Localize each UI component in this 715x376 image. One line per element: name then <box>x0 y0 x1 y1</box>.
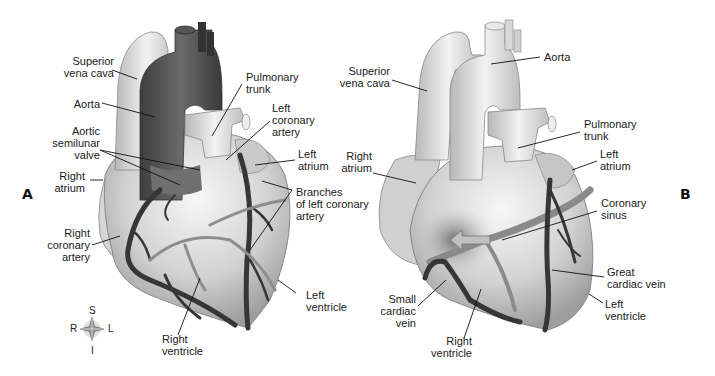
heart-anterior-view <box>99 22 290 328</box>
label-a-branches-left-coronary-artery: Branches of left coronary artery <box>296 186 369 222</box>
compass-left: L <box>108 323 114 334</box>
label-b-superior-vena-cava: Superior vena cava <box>330 65 390 89</box>
label-a-right-atrium: Right atrium <box>40 170 85 194</box>
label-a-right-ventricle: Right ventricle <box>162 333 203 357</box>
label-b-aorta: Aorta <box>544 51 570 63</box>
label-a-left-atrium: Left atrium <box>298 148 329 172</box>
label-b-small-cardiac-vein: Small cardiac vein <box>366 293 416 329</box>
label-a-aorta: Aorta <box>54 98 100 110</box>
label-a-pulmonary-trunk: Pulmonary trunk <box>246 71 299 95</box>
panel-label-a: A <box>22 186 33 202</box>
label-b-left-ventricle: Left ventricle <box>605 298 646 322</box>
label-a-left-coronary-artery: Left coronary artery <box>272 102 315 138</box>
compass-star-icon <box>80 317 104 341</box>
heart-diagram: A Superior vena cava Aorta Aortic semilu… <box>0 0 715 376</box>
label-b-great-cardiac-vein: Great cardiac vein <box>607 266 666 290</box>
compass-superior: S <box>89 305 96 316</box>
label-a-aortic-semilunar-valve: Aortic semilunar valve <box>40 125 100 161</box>
label-a-right-coronary-artery: Right coronary artery <box>30 227 90 263</box>
label-b-right-ventricle: Right ventricle <box>420 335 472 359</box>
label-b-pulmonary-trunk: Pulmonary trunk <box>584 118 637 142</box>
label-a-superior-vena-cava: Superior vena cava <box>54 55 114 79</box>
label-b-coronary-sinus: Coronary sinus <box>601 197 646 221</box>
heart-posterior-view <box>379 20 593 330</box>
compass-inferior: I <box>91 345 94 356</box>
panel-label-b: B <box>680 186 691 202</box>
label-b-right-atrium: Right atrium <box>330 150 372 174</box>
label-b-left-atrium: Left atrium <box>600 148 631 172</box>
label-a-left-ventricle: Left ventricle <box>306 289 347 313</box>
compass-right: R <box>70 323 77 334</box>
